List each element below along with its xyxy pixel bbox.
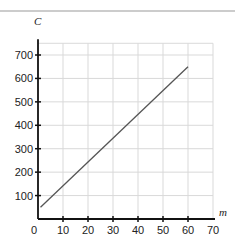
x-tick-label: 30 [107,224,119,236]
x-tick-label: 10 [57,224,69,236]
x-tick-label: 20 [82,224,94,236]
x-tick-label: 50 [157,224,169,236]
grid [38,43,213,219]
y-tick-label: 200 [15,166,33,178]
y-tick-label: 500 [15,96,33,108]
x-axis-label: m [219,206,227,218]
x-tick-label: 70 [207,224,219,236]
x-tick-label: 40 [132,224,144,236]
y-tick-label: 300 [15,143,33,155]
line-chart: 010203040506070100200300400500600700 C m [0,0,235,245]
y-tick-label: 700 [15,49,33,61]
x-tick-label: 60 [182,224,194,236]
y-axis-label: C [34,15,42,27]
y-tick-label: 400 [15,119,33,131]
y-tick-label: 100 [15,190,33,202]
x-tick-label: 0 [31,224,37,236]
y-tick-label: 600 [15,72,33,84]
